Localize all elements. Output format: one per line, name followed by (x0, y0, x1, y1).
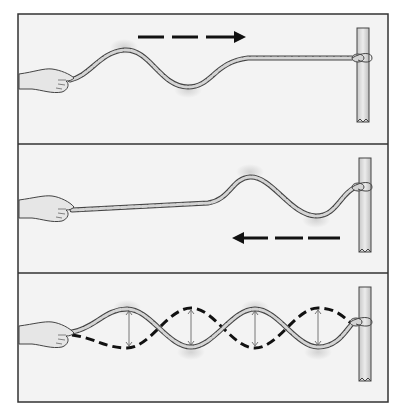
rope-wave-figure (0, 0, 406, 414)
post (359, 287, 371, 381)
post (359, 158, 371, 252)
hand-icon (19, 69, 74, 93)
post (357, 28, 369, 122)
